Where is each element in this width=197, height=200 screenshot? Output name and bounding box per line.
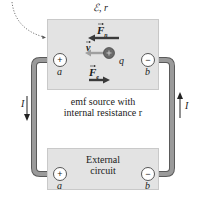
terminal-a-positive-source: + xyxy=(53,53,67,67)
charge-label: q xyxy=(119,55,124,66)
source-description: emf source with internal resistance r xyxy=(47,96,159,118)
terminal-b-label-source: b xyxy=(145,66,150,77)
terminal-b-label-external: b xyxy=(145,180,150,191)
electric-force-label: Fe xyxy=(89,66,99,80)
nonelectric-force-label: Fn xyxy=(97,24,108,38)
current-label-right: I xyxy=(185,100,188,111)
terminal-a-label-external: a xyxy=(57,180,62,191)
terminal-b-negative-source: − xyxy=(141,53,155,67)
current-label-left: I xyxy=(21,98,24,109)
terminal-a-label-source: a xyxy=(57,66,62,77)
external-circuit-label: External circuit xyxy=(47,154,159,176)
velocity-label: v xyxy=(86,42,90,53)
